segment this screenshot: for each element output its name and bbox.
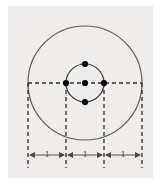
dimension-label-right: 1 [116, 149, 130, 159]
dot-center [82, 80, 88, 86]
dot-bottom [82, 99, 88, 105]
dot-top [82, 61, 88, 67]
figure-canvas [0, 0, 161, 188]
dot-left [63, 80, 69, 86]
geometry-figure: 1 1 1 [0, 0, 161, 188]
dimension-label-middle: 1 [78, 149, 92, 159]
dimension-label-left: 1 [40, 149, 54, 159]
dot-right [101, 80, 107, 86]
